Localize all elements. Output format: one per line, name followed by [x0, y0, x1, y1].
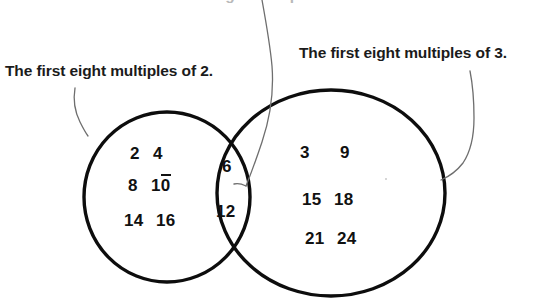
right-set-label: The first eight multiples of 3. — [299, 44, 507, 62]
left-set-value-2: 2 — [130, 144, 140, 164]
intersection-value-12: 12 — [216, 202, 235, 222]
right-set-value-21: 21 — [305, 229, 324, 249]
right-label-leader-line — [441, 71, 474, 180]
left-set-label: The first eight multiples of 2. — [5, 62, 213, 80]
right-set-value-15: 15 — [302, 190, 321, 210]
top-caption: The first eight multiples of 6. — [148, 0, 356, 4]
scan-speck-artifact — [385, 178, 387, 180]
left-set-value-8: 8 — [128, 176, 138, 196]
top-caption-leader-line — [246, 0, 273, 186]
right-set-value-24: 24 — [337, 229, 356, 249]
right-set-value-18: 18 — [334, 190, 353, 210]
right-set-value-9: 9 — [340, 143, 350, 163]
intersection-value-6: 6 — [222, 157, 232, 177]
top-caption-leader-tick — [234, 184, 246, 186]
left-label-leader-line — [74, 88, 88, 136]
left-set-value-10: 10 — [151, 176, 170, 196]
right-set-value-3: 3 — [300, 143, 310, 163]
left-set-circle — [84, 112, 250, 282]
left-set-value-4: 4 — [153, 144, 163, 164]
left-set-value-14: 14 — [124, 211, 143, 231]
left-set-value-16: 16 — [156, 211, 175, 231]
stray-overline-artifact — [161, 174, 171, 176]
venn-diagram-canvas: The first eight multiples of 6. The firs… — [0, 0, 538, 302]
